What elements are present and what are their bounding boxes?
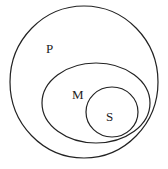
set-p-outline: [10, 6, 158, 158]
set-p-label: P: [46, 41, 53, 56]
venn-diagram: P M S: [0, 0, 168, 169]
set-m-label: M: [72, 87, 84, 102]
set-s-label: S: [106, 109, 113, 124]
